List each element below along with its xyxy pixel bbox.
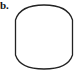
shape-path — [16, 5, 73, 69]
barrel-shape-outline — [0, 0, 76, 74]
